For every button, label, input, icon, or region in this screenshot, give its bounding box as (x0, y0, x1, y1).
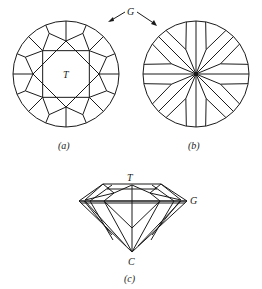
girdle-label: G (127, 6, 134, 17)
caption-a: (a) (58, 140, 70, 152)
side-profile-diagram (79, 184, 187, 252)
girdle-label-side: G (190, 195, 197, 206)
brilliant-cut-diamond-figure: T (a) (b) G T G C (c) (0, 0, 262, 289)
pavilion-view-diagram (143, 21, 249, 127)
culet-label: C (128, 256, 135, 267)
girdle-arrow-left-icon (108, 12, 125, 22)
table-label: T (63, 69, 70, 80)
girdle-arrow-right-icon (137, 12, 157, 26)
table-label-side: T (127, 172, 134, 183)
caption-b: (b) (188, 140, 200, 152)
caption-c: (c) (124, 273, 136, 285)
